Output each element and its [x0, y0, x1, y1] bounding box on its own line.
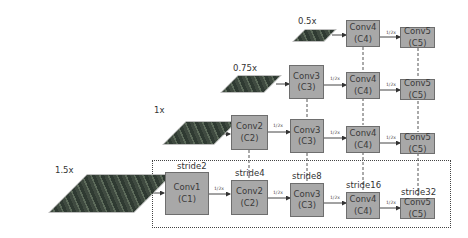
- stride-label-4: stride4: [235, 168, 265, 178]
- conv2-box-1x: Conv2(C2): [231, 115, 268, 150]
- downsample-label: 1/2x: [386, 30, 396, 35]
- downsample-label: 1/2x: [214, 186, 224, 191]
- conv-sub: (C5): [409, 38, 427, 49]
- conv-name: Conv3: [294, 189, 321, 200]
- conv-name: Conv3: [294, 125, 321, 136]
- conv-name: Conv4: [350, 128, 377, 139]
- conv-sub: (C4): [354, 206, 372, 217]
- stride-label-8: stride8: [292, 171, 322, 181]
- downsample-label: 1/2x: [330, 76, 340, 81]
- conv-sub: (C4): [354, 140, 372, 151]
- conv5-box-0.75x: Conv5(C5): [400, 79, 435, 100]
- conv5-box-1.5x: Conv5(C5): [400, 198, 435, 219]
- conv-sub: (C5): [409, 90, 427, 101]
- scale-label-0.5x: 0.5x: [298, 16, 317, 26]
- stride-label-16: stride16: [346, 180, 381, 190]
- conv-sub: (C5): [409, 209, 427, 220]
- stride-label-32: stride32: [401, 187, 436, 197]
- conv5-box-1x: Conv5(C5): [400, 133, 435, 154]
- conv3-box-0.75x: Conv3(C3): [289, 65, 324, 99]
- downsample-label: 1/2x: [330, 130, 340, 135]
- conv4-box-1.5x: Conv4(C4): [346, 192, 380, 219]
- downsample-label: 1/2x: [330, 195, 340, 200]
- conv4-box-0.75x: Conv4(C4): [346, 72, 380, 99]
- downsample-label: 1/2x: [386, 135, 396, 140]
- conv-sub: (C2): [241, 198, 259, 209]
- scale-label-0.75x: 0.75x: [233, 63, 257, 73]
- conv-name: Conv3: [293, 71, 320, 82]
- conv-name: Conv2: [236, 186, 263, 197]
- stride-label-2: stride2: [177, 161, 207, 171]
- conv3-box-1.5x: Conv3(C3): [290, 183, 324, 217]
- conv3-box-1x: Conv3(C3): [290, 119, 324, 153]
- conv-name: Conv5: [404, 26, 431, 37]
- conv-name: Conv5: [404, 197, 431, 208]
- scale-label-1.5x: 1.5x: [55, 165, 74, 175]
- conv-sub: (C5): [409, 144, 427, 155]
- conv-sub: (C1): [178, 194, 196, 205]
- conv-sub: (C4): [354, 34, 372, 45]
- conv-sub: (C3): [298, 200, 316, 211]
- downsample-label: 1/2x: [273, 190, 283, 195]
- conv-name: Conv2: [236, 121, 263, 132]
- conv1-box-1.5x: Conv1(C1): [165, 172, 209, 215]
- conv-name: Conv1: [174, 182, 201, 193]
- conv-name: Conv4: [350, 194, 377, 205]
- conv-name: Conv5: [404, 78, 431, 89]
- scale-label-1x: 1x: [154, 105, 164, 115]
- conv-sub: (C4): [354, 86, 372, 97]
- downsample-label: 1/2x: [273, 123, 283, 128]
- downsample-label: 1/2x: [386, 82, 396, 87]
- conv-sub: (C2): [241, 133, 259, 144]
- conv2-box-1.5x: Conv2(C2): [231, 180, 268, 215]
- conv-name: Conv4: [350, 22, 377, 33]
- conv-sub: (C3): [298, 82, 316, 93]
- conv-name: Conv5: [404, 132, 431, 143]
- conv4-box-0.5x: Conv4(C4): [346, 20, 380, 47]
- conv5-box-0.5x: Conv5(C5): [400, 27, 435, 48]
- downsample-label: 1/2x: [386, 200, 396, 205]
- conv-sub: (C3): [298, 136, 316, 147]
- conv-name: Conv4: [350, 74, 377, 85]
- conv4-box-1x: Conv4(C4): [346, 126, 380, 153]
